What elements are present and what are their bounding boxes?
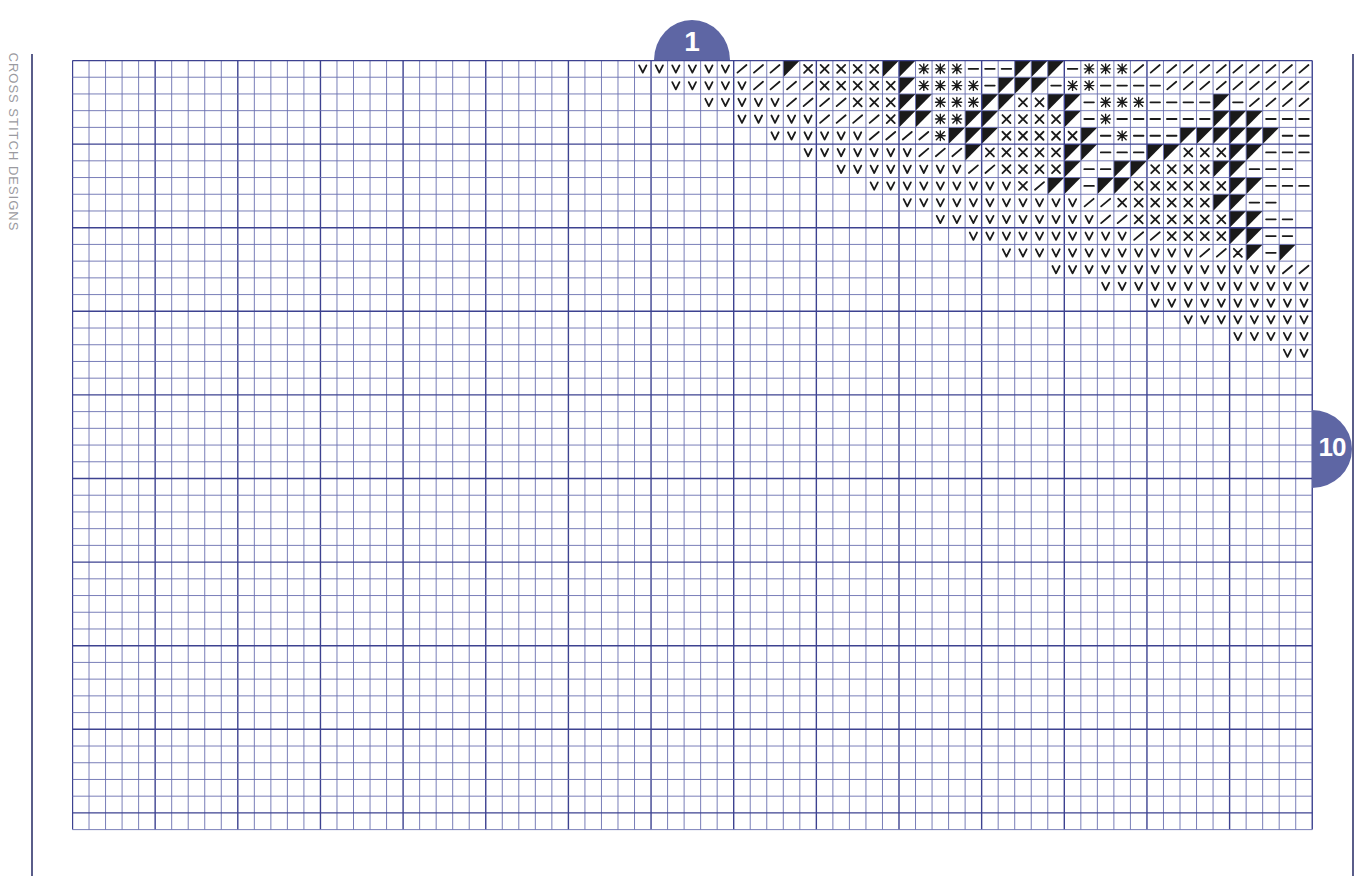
side-label: CROSS STITCH DESIGNS [6,53,21,263]
right-margin-rule [1352,54,1354,876]
end-marker-number: 10 [1312,432,1352,463]
stitch-chart-grid [72,60,1314,832]
left-margin-rule [31,54,33,876]
start-marker-number: 1 [654,26,730,58]
